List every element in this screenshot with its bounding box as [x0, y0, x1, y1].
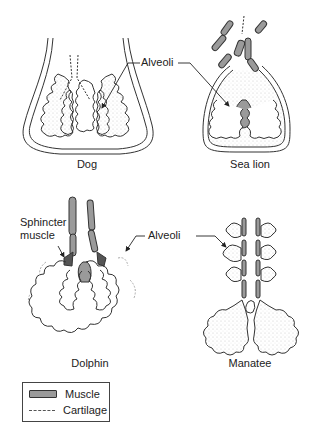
legend-item-muscle: Muscle [29, 387, 100, 401]
caption-sea-lion: Sea lion [220, 158, 280, 170]
alveoli-label-bottom: Alveoli [148, 229, 180, 242]
cartilage-dashed-line-icon [29, 410, 55, 411]
legend-item-cartilage: Cartilage [29, 403, 107, 417]
caption-dolphin: Dolphin [60, 357, 120, 369]
muscle-segments [242, 218, 260, 298]
caption-manatee: Manatee [220, 357, 280, 369]
caption-dog: Dog [62, 158, 112, 170]
sea-lion-lung-diagram [203, 16, 290, 152]
sphincter-label-line2: muscle [20, 229, 66, 242]
sphincter-muscle-label: Sphincter muscle [20, 216, 66, 241]
sphincter-muscle-left [64, 252, 73, 266]
legend: Muscle Cartilage [22, 382, 110, 422]
muscle-swatch-icon [29, 390, 57, 398]
legend-label-muscle: Muscle [65, 388, 100, 400]
sphincter-label-line1: Sphincter [20, 216, 66, 229]
dog-lung-diagram [23, 38, 153, 154]
sphincter-muscle-right [97, 252, 106, 266]
muscle-segments [69, 197, 98, 256]
muscle-segments [211, 20, 268, 73]
legend-label-cartilage: Cartilage [63, 404, 107, 416]
alveoli-label-top: Alveoli [141, 56, 173, 69]
